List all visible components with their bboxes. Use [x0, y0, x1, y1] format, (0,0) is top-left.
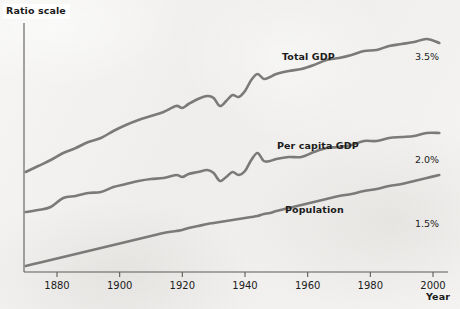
growth-rate-per-capita-gdp: 2.0%: [415, 155, 439, 165]
series-label-population: Population: [285, 205, 344, 215]
series-label-total-gdp: Total GDP: [282, 52, 335, 62]
x-axis-tick-label: 1900: [107, 281, 132, 291]
x-axis-tick-label: 1940: [232, 281, 257, 291]
chart-series-group: [26, 39, 440, 266]
chart-axes: [24, 23, 448, 272]
series-line-population: [26, 175, 440, 266]
growth-rate-total-gdp: 3.5%: [415, 52, 439, 62]
series-line-per-capita-gdp: [26, 133, 440, 212]
x-axis-tick-label: 1920: [170, 281, 195, 291]
series-label-per-capita-gdp: Per capita GDP: [277, 141, 359, 151]
x-axis-ticks: [57, 272, 433, 277]
x-axis-title: Year: [426, 292, 450, 302]
growth-rate-population: 1.5%: [415, 219, 439, 229]
x-axis-tick-label: 1880: [44, 281, 69, 291]
series-line-total-gdp: [26, 39, 440, 172]
chart-figure: Ratio scale Total GDP 3.5% Per capita GD…: [0, 0, 460, 309]
ratio-scale-label: Ratio scale: [3, 4, 70, 19]
x-axis-tick-label: 1960: [295, 281, 320, 291]
x-axis-tick-label: 2000: [420, 281, 445, 291]
chart-plot-area: [0, 0, 460, 309]
x-axis-tick-label: 1980: [358, 281, 383, 291]
